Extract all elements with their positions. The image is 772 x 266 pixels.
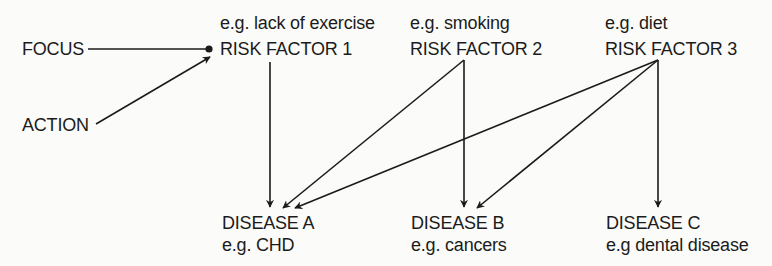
disease-b-label: DISEASE B [411,213,504,233]
edge-rf3-da [295,60,658,208]
rf1-example: e.g. lack of exercise [220,13,375,33]
rf2-example: e.g. smoking [410,13,510,33]
disease-c-example: e.g dental disease [606,235,749,255]
focus-dot-icon [205,45,212,52]
rf3-example: e.g. diet [605,13,667,33]
disease-a-label: DISEASE A [222,213,314,233]
focus-label: FOCUS [22,39,84,59]
edge-rf3-db [477,60,658,208]
edge-rf2-da [283,60,464,208]
edge-action-rf1 [96,57,210,124]
rf1-label: RISK FACTOR 1 [220,39,352,59]
disease-c-label: DISEASE C [606,213,700,233]
rf3-label: RISK FACTOR 3 [605,39,737,59]
rf2-label: RISK FACTOR 2 [410,39,542,59]
disease-b-example: e.g. cancers [411,235,507,255]
action-label: ACTION [22,115,89,135]
disease-a-example: e.g. CHD [222,235,294,255]
